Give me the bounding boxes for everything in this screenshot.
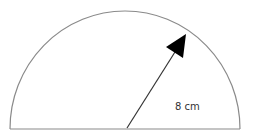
radius-arrow-shaft — [127, 52, 175, 128]
semicircle-arc — [10, 11, 240, 129]
radius-label: 8 cm — [175, 101, 200, 112]
semicircle-diagram: 8 cm — [0, 0, 253, 132]
radius-arrow-head-icon — [166, 34, 186, 58]
